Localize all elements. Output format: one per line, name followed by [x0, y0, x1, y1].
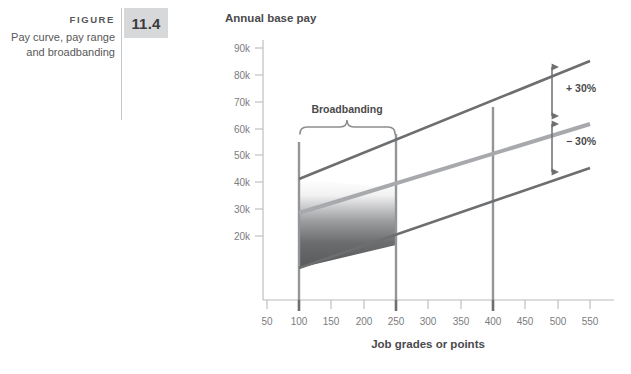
upper-pay-limit-line [299, 61, 590, 179]
y-axis-ticks [255, 48, 263, 236]
y-tick-label: 20k [234, 231, 251, 242]
y-tick-label: 90k [234, 43, 251, 54]
y-tick-label: 80k [234, 70, 251, 81]
broadbanding-brace [300, 120, 395, 134]
y-axis-tick-labels: 90k 80k 70k 60k 50k 40k 30k 20k [234, 43, 251, 242]
y-axis-title: Annual base pay [225, 12, 317, 24]
x-tick-label: 150 [323, 316, 340, 327]
x-tick-label: 550 [582, 316, 599, 327]
x-axis-title: Job grades or points [371, 338, 485, 350]
y-tick-label: 60k [234, 124, 251, 135]
pay-curve-chart: Annual base pay 90k 80k 70k 60k 50k 40k … [0, 0, 631, 374]
y-tick-label: 70k [234, 97, 251, 108]
broadbanding-label: Broadbanding [311, 103, 382, 115]
broadbanding-gradient-region [299, 179, 396, 268]
x-tick-label: 200 [356, 316, 373, 327]
y-tick-label: 30k [234, 204, 251, 215]
y-tick-label: 40k [234, 177, 251, 188]
x-tick-label: 100 [291, 316, 308, 327]
x-tick-label: 500 [550, 316, 567, 327]
plus-30-label: + 30% [566, 82, 597, 94]
y-tick-label: 50k [234, 150, 251, 161]
x-axis-ticks [267, 300, 590, 311]
x-tick-label: 400 [485, 316, 502, 327]
x-tick-label: 350 [453, 316, 470, 327]
pay-curve-midpoint-line [299, 124, 590, 213]
x-axis-tick-labels: 50 100 150 200 250 300 350 400 450 500 5… [261, 316, 598, 327]
x-tick-label: 450 [517, 316, 534, 327]
chart-container: Annual base pay 90k 80k 70k 60k 50k 40k … [0, 0, 631, 374]
minus-30-label: − 30% [566, 135, 597, 147]
x-tick-label: 250 [388, 316, 405, 327]
x-tick-label: 300 [420, 316, 437, 327]
x-tick-label: 50 [261, 316, 273, 327]
